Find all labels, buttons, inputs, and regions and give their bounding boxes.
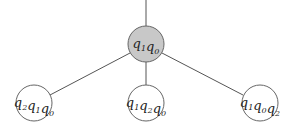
child-node-middle: q1q2q0 — [126, 85, 166, 121]
root-node: q1q0 — [128, 26, 164, 62]
edge-left — [50, 53, 130, 95]
tree-diagram: q1q0 q2q1q0 q1q2q0 q1q0q2 — [0, 0, 289, 130]
child-node-left: q2q1q0 — [14, 85, 54, 121]
edge-right — [162, 53, 243, 95]
child-node-right: q1q0q2 — [240, 85, 280, 121]
